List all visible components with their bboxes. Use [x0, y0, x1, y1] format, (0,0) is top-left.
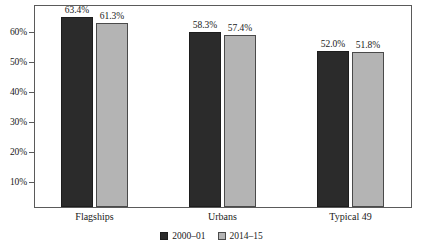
y-tick-label: 10% — [10, 176, 27, 188]
bar-flagships-2000-01[interactable]: 63.4% — [61, 17, 93, 207]
y-axis: 60% 50% 40% 30% 20% 10% — [0, 0, 34, 208]
y-tick-label: 20% — [10, 146, 27, 158]
y-tick-label: 60% — [10, 26, 27, 38]
chart-legend: 2000–01 2014–15 — [0, 228, 423, 244]
legend-swatch-icon — [218, 232, 226, 240]
legend-label: 2000–01 — [172, 231, 205, 242]
bar-group-flagships: 63.4% 61.3% — [61, 6, 128, 207]
legend-label: 2014–15 — [230, 231, 263, 242]
x-axis: Flagships Urbans Typical 49 — [35, 209, 411, 225]
legend-entry-2014-15[interactable]: 2014–15 — [218, 231, 263, 242]
bar-value-label: 51.8% — [356, 40, 381, 51]
bar-value-label: 63.4% — [65, 5, 90, 16]
bar-flagships-2014-15[interactable]: 61.3% — [96, 23, 128, 207]
x-tick-label-flagships: Flagships — [61, 210, 128, 223]
bar-value-label: 52.0% — [321, 39, 346, 50]
bars-layer: 63.4% 61.3% 58.3% 57.4% 52.0% 51.8% — [35, 6, 411, 207]
bar-typical-49-2014-15[interactable]: 51.8% — [352, 52, 384, 207]
bar-typical-49-2000-01[interactable]: 52.0% — [317, 51, 349, 207]
bar-group-typical-49: 52.0% 51.8% — [317, 6, 384, 207]
bar-value-label: 57.4% — [228, 23, 253, 34]
x-tick-label-typical-49: Typical 49 — [317, 210, 384, 223]
y-tick-label: 50% — [10, 56, 27, 68]
y-tick-label: 30% — [10, 116, 27, 128]
legend-swatch-icon — [160, 232, 168, 240]
bar-urbans-2000-01[interactable]: 58.3% — [189, 32, 221, 207]
legend-entry-2000-01[interactable]: 2000–01 — [160, 231, 205, 242]
bar-urbans-2014-15[interactable]: 57.4% — [224, 35, 256, 207]
bar-value-label: 58.3% — [193, 20, 218, 31]
y-tick-label: 40% — [10, 86, 27, 98]
bar-group-urbans: 58.3% 57.4% — [189, 6, 256, 207]
bar-chart-figure: 60% 50% 40% 30% 20% 10% 63.4% — [0, 0, 423, 248]
x-tick-label-urbans: Urbans — [189, 210, 256, 223]
bar-value-label: 61.3% — [100, 11, 125, 22]
